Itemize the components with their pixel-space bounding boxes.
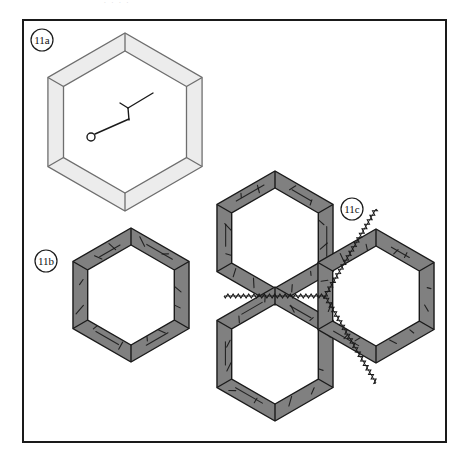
part-11c-cell-lower-left-band (217, 287, 333, 421)
part-11c-cell-upper-left-hatch-tick (292, 285, 293, 292)
y-arrow-pointer-fork-right (128, 93, 153, 108)
label-11b: 11b (35, 250, 57, 272)
label-11c-text: 11c (344, 203, 360, 215)
part-11b-band (73, 228, 189, 362)
part-11a-hexagon-ring (48, 33, 202, 211)
part-11b-hexagon-ring (73, 228, 189, 362)
y-arrow-pointer-stem (128, 108, 129, 120)
label-11b-text: 11b (38, 255, 55, 267)
label-11c: 11c (341, 198, 363, 220)
part-11c-hexagon-cluster (217, 171, 434, 421)
figure-page: . . . . 11a11b11c (0, 0, 466, 459)
pin-pointer-line (95, 119, 129, 134)
figure-drawing: 11a11b11c (0, 0, 466, 459)
y-arrow-pointer-fork-left (120, 103, 128, 108)
label-11a-text: 11a (34, 34, 50, 46)
part-11c-cell-right-band (318, 229, 434, 363)
pin-pointer-dot (87, 133, 95, 141)
label-11a: 11a (31, 29, 53, 51)
part-11c-cell-upper-left-band (217, 171, 333, 305)
annotation-pointers (87, 93, 153, 141)
part-11a-band (48, 33, 202, 211)
part-11c-cell-upper-left-hatch-tick (253, 278, 254, 287)
